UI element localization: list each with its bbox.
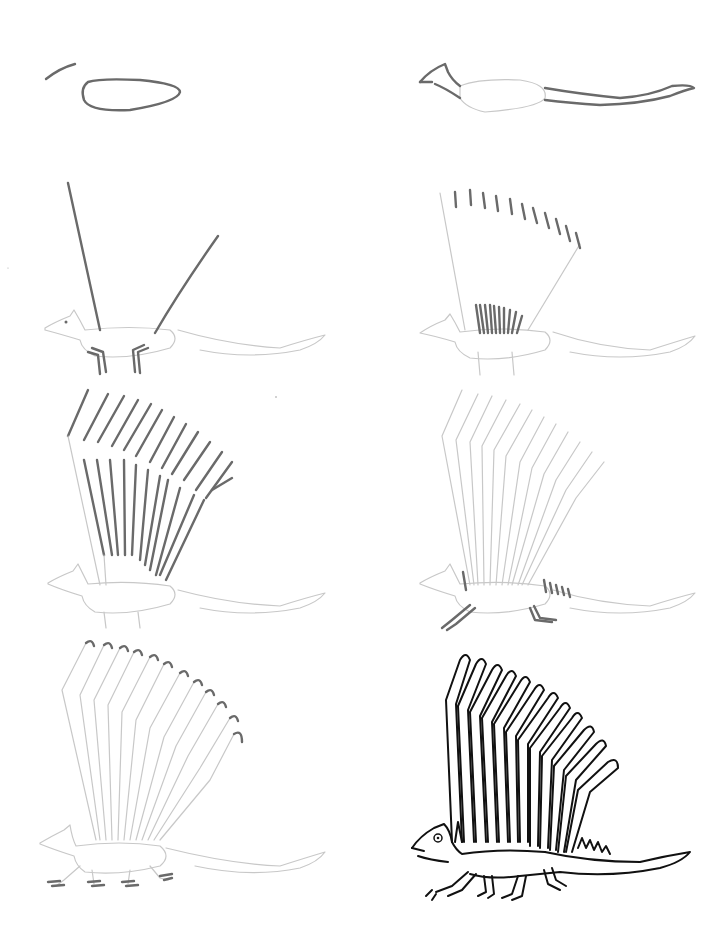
step-4-panel bbox=[420, 190, 695, 375]
stray-dot bbox=[275, 396, 277, 398]
step-7-panel bbox=[40, 641, 325, 886]
sail-spines-hooked bbox=[62, 641, 242, 840]
step-1-panel bbox=[46, 64, 180, 110]
step-5-panel bbox=[48, 390, 325, 628]
stray-dot bbox=[7, 267, 8, 268]
top-ticks bbox=[455, 190, 580, 248]
sail-spines-final bbox=[446, 655, 618, 852]
step-6-panel bbox=[420, 390, 695, 630]
step-2-panel bbox=[420, 64, 694, 112]
sail-spines-light bbox=[442, 390, 604, 585]
step-8-panel bbox=[412, 655, 690, 900]
drawing-tutorial-canvas bbox=[0, 0, 707, 927]
step-3-panel bbox=[45, 183, 325, 374]
sail-spines bbox=[68, 390, 232, 585]
